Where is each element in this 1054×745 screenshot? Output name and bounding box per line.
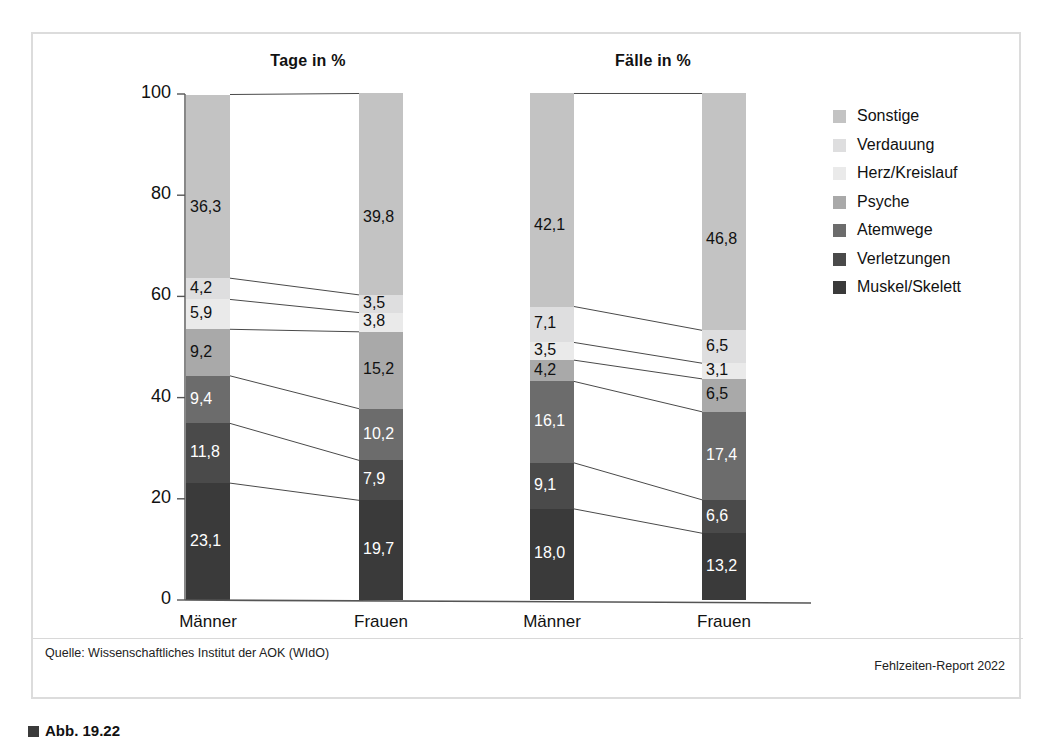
legend-label: Muskel/Skelett [857, 278, 961, 296]
category-label: Frauen [311, 612, 451, 632]
category-label: Frauen [654, 612, 794, 632]
legend-swatch-atemwege [833, 224, 846, 237]
caption-marker-icon [28, 726, 39, 737]
bar-segment-value: 10,2 [363, 426, 394, 442]
bar-segment-value: 36,3 [190, 199, 221, 215]
caption-label: Abb. 19.22 [45, 722, 120, 739]
bar-segment-value: 6,6 [706, 508, 728, 524]
bar-segment [186, 95, 230, 279]
y-axis-tick-label: 60 [125, 284, 171, 305]
figure-frame: 100806040200Tage in %23,111,89,49,25,94,… [31, 32, 1021, 699]
bar-segment-value: 19,7 [363, 541, 394, 557]
y-axis-tick-label: 40 [125, 386, 171, 407]
bar-segment-value: 15,2 [363, 361, 394, 377]
y-axis-tick-label: 20 [125, 487, 171, 508]
legend-swatch-sonstige [833, 110, 846, 123]
bar-segment [702, 93, 746, 330]
legend-swatch-psyche [833, 196, 846, 209]
legend-swatch-verletzungen [833, 253, 846, 266]
bar-segment-value: 6,5 [706, 386, 728, 402]
bar-segment-value: 17,4 [706, 447, 737, 463]
report-note: Fehlzeiten-Report 2022 [874, 659, 1005, 673]
legend-label: Atemwege [857, 221, 933, 239]
legend-label: Verdauung [857, 136, 934, 154]
bar-segment-value: 3,8 [363, 313, 385, 329]
legend-label: Herz/Kreislauf [857, 164, 957, 182]
bar-segment-value: 3,1 [706, 362, 728, 378]
bar-segment [530, 93, 574, 306]
bar-segment-value: 11,8 [190, 444, 220, 460]
y-axis-tick-label: 100 [125, 82, 171, 103]
bar-segment-value: 9,2 [190, 344, 212, 360]
bar-segment-value: 42,1 [534, 217, 565, 233]
category-label: Männer [482, 612, 622, 632]
bar-segment-value: 7,9 [363, 471, 385, 487]
bar-segment-value: 18,0 [534, 545, 565, 561]
bar-segment-value: 9,1 [534, 477, 556, 493]
legend-label: Sonstige [857, 107, 919, 125]
bar-segment [359, 93, 403, 294]
legend-swatch-herz-kreislauf [833, 167, 846, 180]
bar-segment-value: 16,1 [534, 413, 565, 429]
bar-segment-value: 13,2 [706, 558, 737, 574]
bar-segment-value: 7,1 [534, 315, 556, 331]
panel-title-1: Tage in % [198, 52, 418, 70]
panel-title-2: Fälle in % [543, 52, 763, 70]
figure-caption: Abb. 19.22 [28, 722, 548, 744]
bar-segment-value: 4,2 [534, 362, 556, 378]
y-axis-tick-label: 80 [125, 183, 171, 204]
y-axis-tick-label: 0 [125, 588, 171, 609]
bar-segment-value: 3,5 [534, 342, 556, 358]
bar-segment-value: 46,8 [706, 231, 737, 247]
bar-segment-value: 6,5 [706, 338, 728, 354]
source-note: Quelle: Wissenschaftliches Institut der … [45, 646, 329, 660]
bar-segment-value: 3,5 [363, 295, 385, 311]
legend-label: Psyche [857, 193, 909, 211]
footer-divider [33, 638, 1023, 639]
bar-segment-value: 23,1 [190, 533, 221, 549]
bar-segment-value: 5,9 [190, 305, 212, 321]
bar-segment-value: 9,4 [190, 391, 212, 407]
bar-segment-value: 39,8 [363, 209, 394, 225]
legend-swatch-verdauung [833, 139, 846, 152]
legend-label: Verletzungen [857, 250, 950, 268]
plot-area: 100806040200Tage in %23,111,89,49,25,94,… [33, 34, 1023, 701]
category-label: Männer [138, 612, 278, 632]
legend-swatch-muskel-skelett [833, 281, 846, 294]
bar-segment-value: 4,2 [190, 280, 212, 296]
